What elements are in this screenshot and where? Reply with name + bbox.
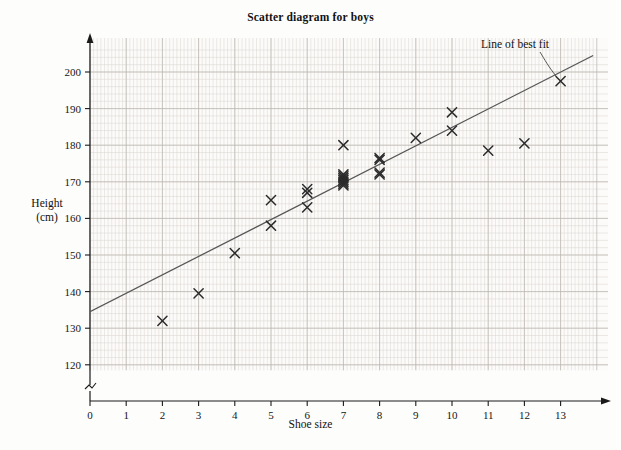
svg-text:140: 140: [65, 286, 82, 298]
x-axis-label: Shoe size: [0, 418, 621, 430]
svg-text:190: 190: [65, 103, 82, 115]
svg-text:170: 170: [65, 176, 82, 188]
y-axis-label-line1: Height: [18, 196, 76, 210]
svg-text:200: 200: [65, 66, 82, 78]
line-of-best-fit-label: Line of best fit: [481, 38, 549, 50]
y-axis-label-line2: (cm): [18, 210, 76, 224]
svg-text:120: 120: [65, 359, 82, 371]
svg-text:150: 150: [65, 249, 82, 261]
svg-text:180: 180: [65, 139, 82, 151]
scatter-plot-svg: 1201301401501601701801902000123456789101…: [0, 0, 621, 450]
svg-text:130: 130: [65, 322, 82, 334]
chart-page: Scatter diagram for boys 120130140150160…: [0, 0, 621, 450]
y-axis-label: Height (cm): [18, 196, 76, 224]
